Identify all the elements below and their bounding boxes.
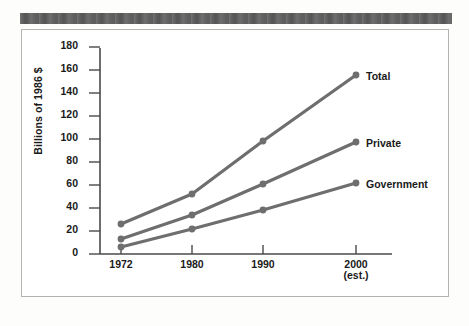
x-tick-marks [121, 245, 356, 254]
page-canvas: Billions of 1986 $ 0 20 40 60 80 100 120… [0, 0, 469, 326]
x-tick-sublabel-est: (est.) [326, 270, 386, 281]
series-total [118, 72, 360, 228]
x-tick-label: 1972 [91, 259, 151, 270]
series-private [118, 139, 360, 243]
chart-svg [0, 0, 469, 326]
series-label-total: Total [366, 70, 390, 82]
series-label-private: Private [366, 137, 401, 149]
series-government [118, 180, 360, 251]
x-tick-label: 1990 [233, 259, 293, 270]
x-tick-label: 1980 [162, 259, 222, 270]
chart-plot-area: Billions of 1986 $ 0 20 40 60 80 100 120… [0, 0, 469, 326]
series-label-government: Government [366, 178, 428, 190]
y-tick-marks [89, 47, 100, 254]
